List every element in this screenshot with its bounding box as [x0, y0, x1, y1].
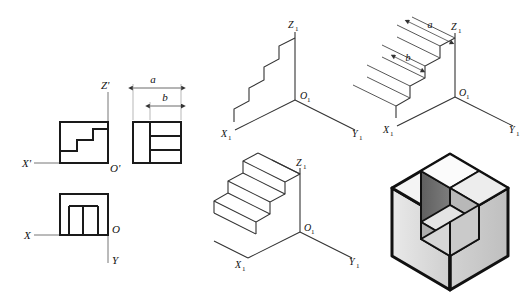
side-view: a b — [133, 73, 181, 163]
step3-edge-2 — [243, 161, 285, 182]
isometric-step-2-projection: a b Z 1 O 1 Y 1 X 1 — [353, 17, 520, 138]
step1-x-label: X — [220, 128, 228, 139]
top-view-origin-label: O — [112, 223, 120, 235]
top-view-y-label: Y — [112, 254, 120, 266]
step3-edge-4 — [228, 181, 270, 202]
isometric-step-3-solid: Z 1 O 1 Y 1 X 1 — [214, 153, 360, 273]
engineering-drawing-figure: X' Z' O' a b — [0, 0, 531, 297]
top-view: X O Y — [23, 194, 120, 266]
step2-dimension-a-label: a — [428, 19, 433, 30]
step2-depth-line-6 — [367, 65, 410, 86]
step3-x-subscript: 1 — [242, 265, 246, 273]
step3-x-axis — [248, 232, 300, 258]
top-view-x-label: X — [23, 229, 32, 241]
front-view: X' Z' O' — [21, 79, 121, 174]
step2-depth-line-2 — [397, 25, 440, 46]
step1-y-axis — [295, 100, 355, 130]
step3-x-label: X — [234, 259, 242, 270]
step2-depth-line-3 — [397, 37, 440, 58]
step1-origin-subscript: 1 — [307, 96, 311, 104]
step2-depth-line-5 — [382, 57, 425, 78]
step2-dimension-b-label: b — [406, 52, 411, 63]
step1-x-subscript: 1 — [228, 134, 232, 142]
step2-depth-line-4 — [382, 45, 425, 66]
step2-x-axis — [397, 97, 455, 126]
front-view-staircase-profile — [60, 129, 108, 151]
step2-dimension-a: a — [409, 19, 450, 42]
isometric-step-1-profile: Z 1 O 1 Y 1 X 1 — [220, 19, 363, 142]
step3-construction-bottom — [214, 241, 248, 258]
step3-edge-3 — [243, 173, 285, 194]
step2-origin-subscript: 1 — [466, 93, 470, 101]
step1-staircase-profile — [234, 38, 295, 122]
step3-y-subscript: 1 — [356, 262, 360, 270]
step2-staircase-profile — [396, 38, 455, 118]
dimension-b-label: b — [162, 91, 168, 103]
step3-y-label: Y — [349, 256, 356, 267]
step3-z-subscript: 1 — [303, 163, 307, 171]
step3-z-label: Z — [296, 157, 302, 168]
step1-y-subscript: 1 — [359, 134, 363, 142]
step1-x-axis — [235, 100, 295, 130]
step1-z-subscript: 1 — [295, 25, 299, 33]
orthographic-projection-group: X' Z' O' a b — [21, 73, 181, 266]
step3-y-axis — [300, 232, 352, 258]
isometric-step-4-shaded — [392, 154, 508, 290]
step1-z-label: Z — [288, 19, 294, 30]
step2-axis-labels: Z 1 O 1 Y 1 X 1 — [382, 21, 520, 138]
step3-origin-subscript: 1 — [311, 228, 315, 236]
step2-y-subscript: 1 — [516, 130, 520, 138]
step2-z-subscript: 1 — [458, 27, 462, 35]
front-view-x-label: X' — [21, 157, 32, 169]
step2-y-axis — [455, 97, 513, 126]
step2-depth-line-1 — [412, 17, 455, 38]
step2-y-label: Y — [509, 124, 516, 135]
step1-y-label: Y — [352, 128, 359, 139]
front-view-origin-label: O' — [110, 162, 121, 174]
step2-x-subscript: 1 — [390, 130, 394, 138]
step2-dimension-b: b — [395, 52, 421, 70]
dimension-a: a — [133, 73, 181, 120]
dimension-a-label: a — [150, 73, 156, 85]
step2-x-label: X — [382, 124, 390, 135]
dimension-b: b — [150, 91, 181, 120]
step2-z-label: Z — [451, 21, 457, 32]
front-view-z-label: Z' — [101, 79, 110, 91]
step3-edge-7 — [214, 213, 256, 234]
side-view-outline — [133, 122, 181, 163]
